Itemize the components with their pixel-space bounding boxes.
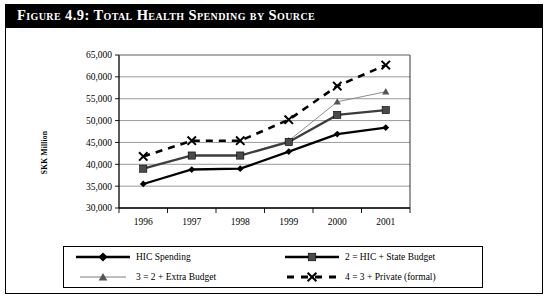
x-axis-tick-label: 1997 [182, 217, 201, 227]
legend-item-extra-budget: 3 = 2 + Extra Budget [64, 267, 273, 287]
diamond-marker-icon [74, 250, 132, 264]
series-square [140, 106, 390, 172]
y-axis-tick-label: 50,000 [86, 116, 112, 126]
x-axis-tick-label: 1998 [231, 217, 250, 227]
y-axis-tick-label: 45,000 [86, 138, 112, 148]
series-diamond [140, 124, 389, 187]
page-title: Figure 4.9: Total Health Spending by Sou… [17, 7, 315, 24]
x-axis-tick-label: 1996 [134, 217, 153, 227]
y-axis-tick-label: 30,000 [86, 203, 112, 213]
legend-label: 3 = 2 + Extra Budget [136, 272, 216, 282]
figure-title-bar: Figure 4.9: Total Health Spending by Sou… [5, 4, 543, 28]
chart-legend: HIC Spending 2 = HIC + State Budget 3 = … [63, 246, 483, 288]
legend-label: 4 = 3 + Private (formal) [345, 272, 436, 282]
x-axis-tick-label: 2001 [376, 217, 395, 227]
y-axis-tick-label: 65,000 [86, 50, 112, 60]
legend-label: HIC Spending [136, 252, 191, 262]
square-marker-icon [283, 250, 341, 264]
x-axis-tick-label: 1999 [279, 217, 298, 227]
y-axis-tick-label: 55,000 [86, 94, 112, 104]
legend-item-private-formal: 4 = 3 + Private (formal) [273, 267, 482, 287]
series-cross [139, 61, 390, 161]
x-axis-tick-label: 2000 [328, 217, 347, 227]
y-axis-tick-label: 40,000 [86, 160, 112, 170]
legend-item-hic-spending: HIC Spending [64, 247, 273, 267]
figure-container: Figure 4.9: Total Health Spending by Sou… [0, 0, 549, 304]
legend-item-hic-state-budget: 2 = HIC + State Budget [273, 247, 482, 267]
y-axis-tick-label: 60,000 [86, 72, 112, 82]
triangle-marker-icon [74, 270, 132, 284]
cross-marker-icon [283, 270, 341, 284]
y-axis-tick-label: 35,000 [86, 182, 112, 192]
legend-label: 2 = HIC + State Budget [345, 252, 435, 262]
